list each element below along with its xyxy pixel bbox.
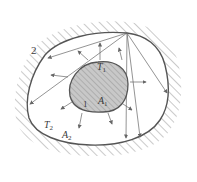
label-T2: T2 (44, 119, 54, 132)
label-body-1: 1 (83, 99, 88, 109)
label-A2: A2 (61, 129, 72, 142)
label-surface-2: 2 (31, 44, 37, 56)
radiation-enclosure-diagram: 2 1 T1 A1 T2 A2 (0, 0, 197, 182)
